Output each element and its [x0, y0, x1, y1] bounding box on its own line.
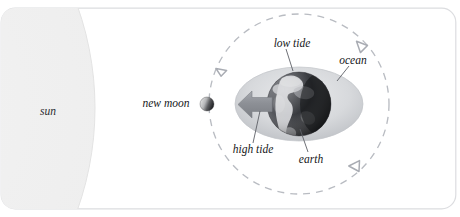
label-earth: earth	[299, 153, 324, 165]
label-new-moon: new moon	[143, 97, 190, 109]
label-ocean: ocean	[339, 54, 367, 66]
label-low-tide: low tide	[274, 37, 311, 49]
label-sun: sun	[40, 105, 56, 117]
new-moon-body	[200, 97, 214, 111]
tide-diagram-figure: sun new moon low tide ocean high tide ea…	[0, 0, 460, 217]
label-high-tide: high tide	[233, 143, 274, 156]
tide-diagram-canvas: sun new moon low tide ocean high tide ea…	[0, 0, 460, 217]
